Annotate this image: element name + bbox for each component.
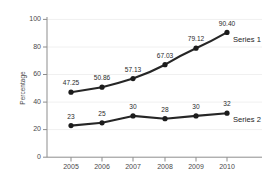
series-2-line bbox=[71, 113, 227, 125]
series-2-marker-2009 bbox=[193, 113, 198, 118]
x-tick-label-2010: 2010 bbox=[219, 163, 235, 170]
series-1-label-2006: 50.86 bbox=[94, 74, 111, 81]
series-1-marker-2008 bbox=[162, 62, 167, 67]
series-1-label-2007: 57.13 bbox=[125, 66, 142, 73]
series-2-label-2010: 32 bbox=[223, 100, 231, 107]
x-axis: 2005 2006 2007 2008 2009 2010 bbox=[47, 157, 262, 170]
series-2-marker-2007 bbox=[130, 113, 135, 118]
series-1-marker-2009 bbox=[193, 46, 198, 51]
series-1-group: 47.25 50.86 57.13 67.03 79.12 90.40 bbox=[63, 20, 236, 95]
legend: Series 1 Series 2 bbox=[233, 35, 261, 124]
x-tick-label-2009: 2009 bbox=[188, 163, 204, 170]
series-2-label-2009: 30 bbox=[192, 103, 200, 110]
legend-item-series-1[interactable]: Series 1 bbox=[233, 35, 261, 44]
y-axis: 100 80 60 40 20 0 Percentage bbox=[19, 15, 47, 160]
series-2-marker-2006 bbox=[99, 120, 104, 125]
series-1-marker-2010 bbox=[224, 30, 229, 35]
y-tick-label-100: 100 bbox=[29, 15, 41, 22]
series-2-marker-2010 bbox=[224, 111, 229, 116]
series-1-label-2005: 47.25 bbox=[63, 79, 80, 86]
series-1-marker-2006 bbox=[99, 85, 104, 90]
series-2-label-2006: 25 bbox=[98, 110, 106, 117]
x-tick-label-2005: 2005 bbox=[63, 163, 79, 170]
y-axis-title: Percentage bbox=[19, 71, 27, 105]
y-tick-label-0: 0 bbox=[37, 153, 41, 160]
series-2-marker-2005 bbox=[68, 123, 73, 128]
gridlines bbox=[47, 19, 262, 129]
series-2-marker-2008 bbox=[162, 116, 167, 121]
series-1-marker-2005 bbox=[68, 90, 73, 95]
series-1-label-2010: 90.40 bbox=[219, 20, 236, 27]
series-2-label-2005: 23 bbox=[67, 113, 75, 120]
x-tick-label-2008: 2008 bbox=[157, 163, 173, 170]
x-tick-label-2006: 2006 bbox=[94, 163, 110, 170]
series-2-label-2007: 30 bbox=[129, 103, 137, 110]
series-2-group: 23 25 30 28 30 32 bbox=[67, 100, 231, 128]
x-tick-label-2007: 2007 bbox=[125, 163, 141, 170]
series-1-label-2008: 67.03 bbox=[157, 52, 174, 59]
chart-canvas: 100 80 60 40 20 0 Percentage 2005 2006 2… bbox=[0, 0, 270, 186]
series-1-label-2009: 79.12 bbox=[188, 35, 205, 42]
series-2-label-2008: 28 bbox=[161, 106, 169, 113]
y-tick-label-80: 80 bbox=[33, 43, 41, 50]
y-tick-label-20: 20 bbox=[33, 125, 41, 132]
y-tick-label-60: 60 bbox=[33, 70, 41, 77]
line-chart: 100 80 60 40 20 0 Percentage 2005 2006 2… bbox=[0, 0, 270, 186]
series-1-marker-2007 bbox=[130, 76, 135, 81]
y-tick-label-40: 40 bbox=[33, 98, 41, 105]
legend-item-series-2[interactable]: Series 2 bbox=[233, 115, 261, 124]
